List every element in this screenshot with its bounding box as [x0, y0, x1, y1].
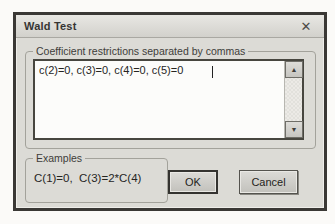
examples-text: C(1)=0, C(3)=2*C(4)	[34, 172, 141, 184]
ok-button[interactable]: OK	[168, 170, 218, 194]
examples-groupbox: Examples C(1)=0, C(3)=2*C(4)	[25, 158, 168, 203]
close-icon[interactable]: ✕	[297, 17, 315, 35]
title-bar: Wald Test ✕	[16, 15, 324, 38]
wald-test-dialog: Wald Test ✕ Coefficient restrictions sep…	[13, 12, 327, 211]
restrictions-input-value: c(2)=0, c(3)=0, c(4)=0, c(5)=0	[39, 64, 280, 76]
vertical-scrollbar[interactable]: ▲ ▼	[284, 61, 302, 138]
scroll-up-icon[interactable]: ▲	[285, 61, 303, 78]
examples-group-label: Examples	[33, 152, 85, 164]
restrictions-input[interactable]: c(2)=0, c(3)=0, c(4)=0, c(5)=0 ▲ ▼	[33, 59, 304, 140]
restrictions-groupbox: Coefficient restrictions separated by co…	[25, 51, 316, 149]
text-caret	[212, 66, 213, 78]
dialog-title: Wald Test	[24, 20, 77, 32]
restrictions-group-label: Coefficient restrictions separated by co…	[33, 45, 248, 57]
scroll-down-icon[interactable]: ▼	[285, 121, 303, 138]
cancel-button[interactable]: Cancel	[239, 170, 298, 194]
page-background: { "dialog": { "title": "Wald Test", "res…	[0, 0, 335, 224]
